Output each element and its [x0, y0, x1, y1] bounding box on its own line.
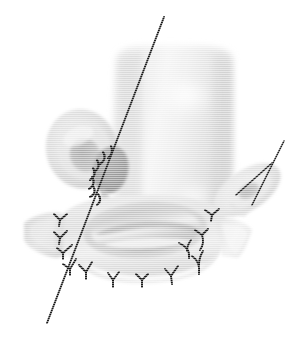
conduit-highlight-upper [140, 80, 220, 140]
anastomosis-illustration [0, 0, 307, 348]
figure-canvas: Surgical anastomosis illustration graysc… [0, 0, 307, 348]
conduit-left-shading [118, 53, 142, 215]
